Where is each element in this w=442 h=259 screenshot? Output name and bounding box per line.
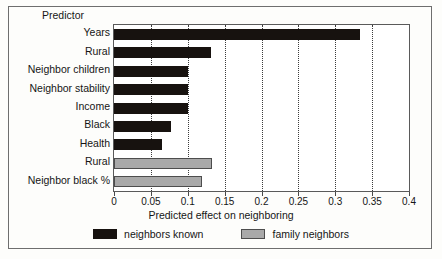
- category-label: Years: [0, 26, 110, 38]
- gridline: [335, 25, 336, 191]
- gridline: [262, 25, 263, 191]
- chart-legend: neighbors knownfamily neighbors: [0, 228, 442, 240]
- category-label: Rural: [0, 155, 110, 167]
- tick-label: 0.2: [255, 196, 269, 207]
- chart-screenshot: Predictor YearsRuralNeighbor childrenNei…: [0, 0, 442, 259]
- bar: [114, 121, 171, 132]
- category-label: Black: [0, 118, 110, 130]
- tick-label: 0.3: [328, 196, 342, 207]
- gridline: [372, 25, 373, 191]
- bar: [114, 66, 188, 77]
- category-label: Rural: [0, 45, 110, 57]
- bar: [114, 29, 360, 40]
- category-label: Health: [0, 137, 110, 149]
- tick-label: 0.05: [141, 196, 160, 207]
- tick-label: 0.15: [215, 196, 234, 207]
- gridline: [298, 25, 299, 191]
- legend-label: neighbors known: [124, 228, 203, 240]
- bar: [114, 139, 162, 150]
- bar: [114, 84, 188, 95]
- bar: [114, 158, 212, 169]
- tick-label: 0.25: [289, 196, 308, 207]
- bar: [114, 103, 188, 114]
- legend-swatch: [241, 229, 265, 239]
- legend-item: neighbors known: [93, 228, 203, 240]
- category-label: Neighbor black %: [0, 174, 110, 186]
- bar: [114, 176, 202, 187]
- x-axis-title: Predicted effect on neighboring: [0, 209, 442, 221]
- tick-label: 0.35: [362, 196, 381, 207]
- plot-inner: [114, 25, 409, 191]
- category-label: Neighbor children: [0, 63, 110, 75]
- category-label: Neighbor stability: [0, 82, 110, 94]
- tick-label: 0: [111, 196, 117, 207]
- gridline: [225, 25, 226, 191]
- tick-label: 0.1: [181, 196, 195, 207]
- plot-area: [113, 24, 410, 192]
- legend-label: family neighbors: [272, 228, 348, 240]
- tick-label: 0.4: [402, 196, 416, 207]
- category-label: Income: [0, 100, 110, 112]
- legend-item: family neighbors: [241, 228, 348, 240]
- bar: [114, 47, 211, 58]
- legend-swatch: [93, 229, 117, 239]
